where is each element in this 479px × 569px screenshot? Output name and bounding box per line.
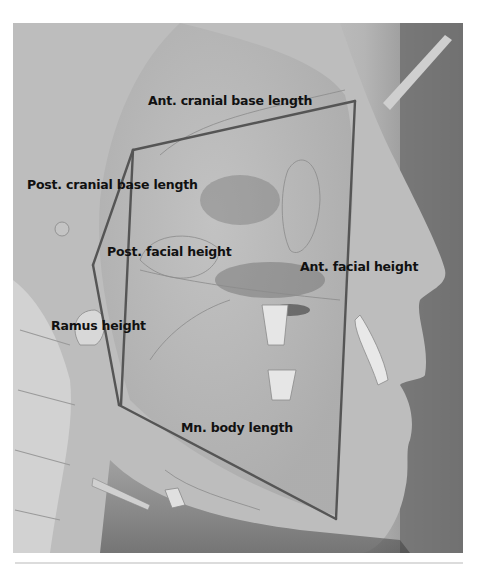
label-ant-cranial-base-length: Ant. cranial base length: [148, 93, 312, 108]
label-post-cranial-base-length: Post. cranial base length: [27, 177, 198, 192]
cephalometric-radiograph: Ant. cranial base length Post. cranial b…: [13, 23, 463, 553]
label-ramus-height: Ramus height: [51, 318, 146, 333]
separator-line: [15, 562, 463, 564]
label-mn-body-length: Mn. body length: [181, 420, 293, 435]
label-post-facial-height: Post. facial height: [107, 244, 232, 259]
label-ant-facial-height: Ant. facial height: [300, 259, 418, 274]
